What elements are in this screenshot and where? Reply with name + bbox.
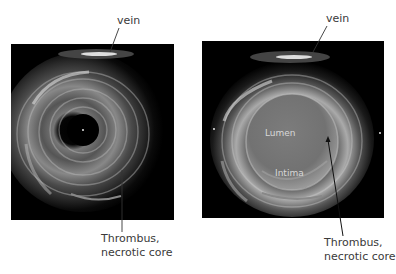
thrombus-label-right-line1: Thrombus,	[324, 236, 383, 249]
vein-label-right: vein	[326, 12, 349, 25]
thrombus-label-left-line2: necrotic core	[101, 246, 173, 259]
intima-label: Intima	[275, 168, 304, 178]
ultrasound-image-left	[11, 44, 174, 220]
ivus-image-right: Lumen Intima	[202, 41, 384, 218]
thrombus-label-left-line1: Thrombus,	[101, 232, 160, 245]
thrombus-label-right-line2: necrotic core	[324, 250, 396, 263]
vein-label-left: vein	[117, 14, 140, 27]
lumen-label: Lumen	[265, 128, 296, 138]
ivus-image-left	[11, 44, 174, 220]
